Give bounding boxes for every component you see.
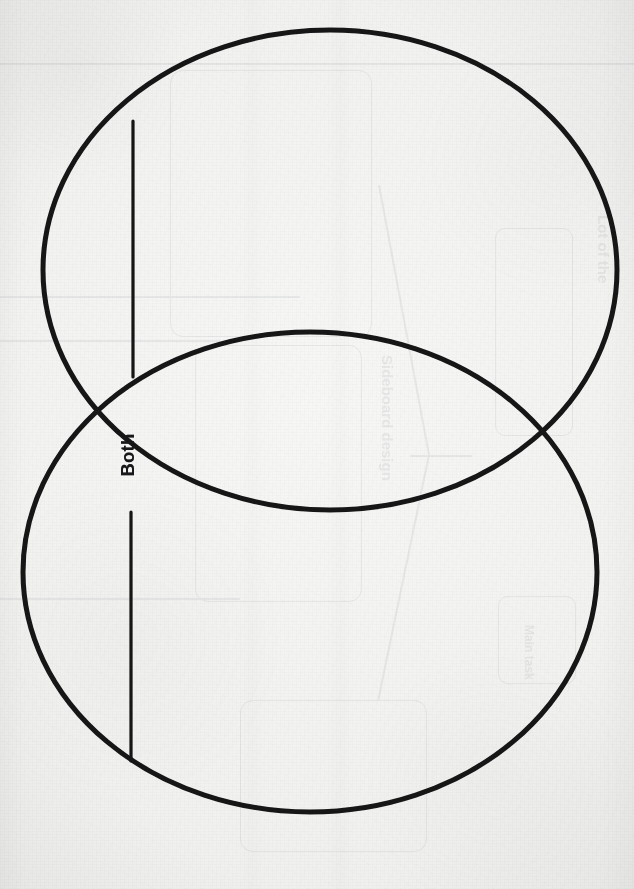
scanned-page: Sideboard design Main task Lot of the — [0, 0, 634, 889]
lower-circle — [23, 332, 597, 812]
venn-diagram-svg — [0, 0, 634, 889]
venn-diagram — [0, 0, 634, 889]
both-region-label: Both — [110, 420, 146, 490]
both-region-label-text: Both — [117, 434, 139, 477]
